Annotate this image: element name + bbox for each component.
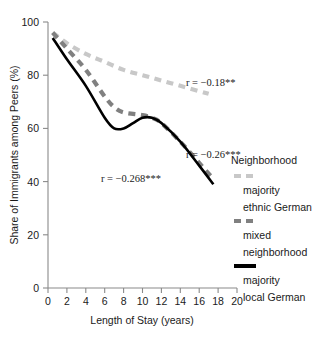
x-tick-label: 0 — [45, 295, 51, 307]
x-tick-label: 16 — [193, 295, 205, 307]
chart-figure: 0 20 40 60 80 100 0 2 4 6 8 10 12 — [0, 0, 330, 339]
legend-label-majority-ethnic-german-line1: majority — [243, 184, 281, 196]
series-group — [53, 33, 214, 185]
x-tick-label: 12 — [156, 295, 168, 307]
series-line-majority-local-german — [53, 38, 214, 184]
y-tick-label: 20 — [27, 229, 39, 241]
legend-title: Neighborhood — [231, 154, 297, 166]
correlation-annotation-black: r = −0.268*** — [101, 173, 161, 184]
y-tick-label: 40 — [27, 176, 39, 188]
legend-label-mixed-neighborhood-line1: mixed — [243, 229, 271, 241]
legend-label-majority-local-german-line1: majority — [243, 274, 281, 286]
x-tick-label: 10 — [137, 295, 149, 307]
line-chart-svg: 0 20 40 60 80 100 0 2 4 6 8 10 12 — [0, 0, 330, 339]
legend: Neighborhood majority ethnic German mixe… — [231, 154, 312, 303]
y-tick-label: 80 — [27, 69, 39, 81]
y-axis-ticks: 0 20 40 60 80 100 — [21, 16, 48, 294]
legend-label-majority-local-german-line2: local German — [243, 291, 306, 303]
x-axis-ticks: 0 2 4 6 8 10 12 14 16 18 20 — [45, 288, 243, 307]
x-tick-label: 18 — [212, 295, 224, 307]
y-tick-label: 100 — [21, 16, 39, 28]
x-tick-label: 8 — [121, 295, 127, 307]
x-tick-label: 2 — [64, 295, 70, 307]
y-tick-label: 60 — [27, 122, 39, 134]
y-tick-label: 0 — [33, 282, 39, 294]
x-tick-label: 14 — [174, 295, 186, 307]
legend-label-mixed-neighborhood-line2: neighborhood — [243, 246, 307, 258]
legend-label-majority-ethnic-german-line2: ethnic German — [243, 201, 312, 213]
x-axis-title: Length of Stay (years) — [90, 314, 193, 326]
x-tick-label: 6 — [102, 295, 108, 307]
correlation-annotation-light: r = −0.18** — [186, 77, 235, 88]
x-tick-label: 4 — [83, 295, 89, 307]
x-tick-label: 20 — [231, 295, 243, 307]
y-axis-title: Share of Immigrants among Peers (%) — [8, 65, 20, 244]
